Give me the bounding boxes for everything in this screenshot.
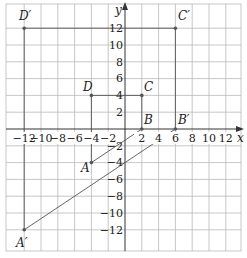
label-D-prime: D′ (18, 9, 32, 23)
y-axis-arrow-icon (122, 2, 128, 10)
point-B-prime (174, 127, 178, 131)
label-A-prime: A′ (15, 236, 28, 250)
x-tick: 4 (155, 132, 162, 145)
point-D-prime (22, 26, 26, 30)
x-axis-label: x (237, 131, 244, 145)
grid-lines (6, 4, 241, 251)
point-C (140, 94, 144, 98)
y-tick: 8 (116, 56, 123, 69)
label-D: D (82, 80, 93, 94)
label-C-prime: C′ (178, 9, 190, 23)
y-tick: 2 (116, 106, 123, 119)
x-tick: 2 (138, 132, 145, 145)
point-B (140, 127, 144, 131)
label-A: A (80, 161, 90, 175)
x-tick: −8 (50, 132, 66, 145)
point-A (90, 161, 94, 165)
y-tick: −4 (107, 156, 123, 169)
label-B-prime: B′ (177, 113, 190, 127)
label-B: B (143, 113, 153, 127)
coordinate-plane-figure: −12 −10 −8 −6 −4 −2 2 4 6 8 10 12 12 10 … (0, 0, 247, 258)
x-tick: 6 (172, 132, 179, 145)
x-tick: 10 (202, 132, 216, 145)
y-tick: 6 (116, 72, 123, 85)
y-axis-label: y (114, 3, 122, 17)
point-D (90, 94, 94, 98)
point-A-prime (22, 228, 26, 232)
y-tick: −10 (100, 207, 123, 220)
y-tick: −8 (107, 190, 123, 203)
axes (6, 2, 244, 251)
x-tick: 12 (219, 132, 233, 145)
x-tick: −4 (83, 132, 99, 145)
y-tick: 12 (109, 22, 123, 35)
y-tick: −12 (100, 224, 123, 237)
y-tick: −6 (107, 173, 123, 186)
y-tick: −2 (107, 140, 123, 153)
x-tick: −6 (66, 132, 82, 145)
x-tick: 8 (189, 132, 196, 145)
point-C-prime (174, 26, 178, 30)
y-tick: 4 (116, 89, 123, 102)
y-tick: 10 (109, 39, 123, 52)
label-C: C (144, 80, 153, 94)
